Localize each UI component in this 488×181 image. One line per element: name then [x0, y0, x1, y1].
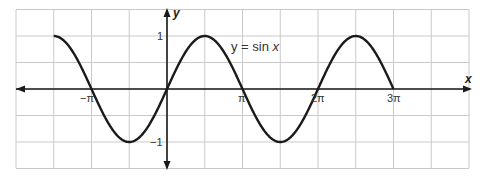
- function-annotation: y = sin x: [231, 39, 280, 54]
- sine-chart: y x 1 −1 −π π 2π 3π y = sin x: [0, 0, 488, 181]
- x-axis-label: x: [464, 72, 473, 86]
- y-tick-1: 1: [157, 30, 163, 42]
- x-tick-neg-pi: −π: [80, 92, 94, 104]
- x-tick-pi: π: [238, 92, 246, 104]
- x-axis-arrow-left-icon: [16, 86, 25, 93]
- x-tick-3pi: 3π: [387, 92, 401, 104]
- y-axis-label: y: [172, 6, 181, 20]
- x-axis-arrow-right-icon: [463, 86, 472, 93]
- y-tick-neg1: −1: [150, 136, 163, 148]
- x-tick-2pi: 2π: [311, 92, 325, 104]
